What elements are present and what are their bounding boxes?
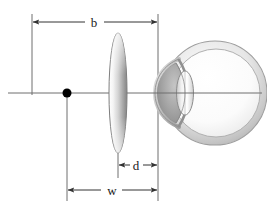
dimension-b: b	[33, 15, 157, 30]
optical-diagram-figure: b d w	[0, 0, 267, 210]
spectacle-lens-sheen	[109, 33, 127, 153]
dimension-w-label: w	[107, 183, 117, 198]
object-point	[63, 89, 72, 98]
spectacle-lens	[109, 33, 127, 153]
dimension-d: d	[119, 158, 157, 173]
diagram-canvas: b d w	[0, 0, 267, 210]
dimension-w: w	[68, 183, 157, 198]
dimension-b-label: b	[91, 15, 98, 30]
dimension-d-label: d	[133, 158, 140, 173]
